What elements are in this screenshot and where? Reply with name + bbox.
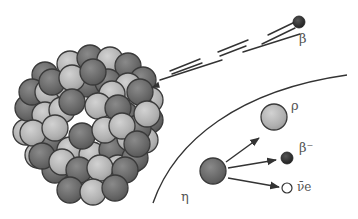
decay-arrows: [226, 138, 279, 187]
electron: [281, 152, 293, 164]
label-emitted-beta: β: [299, 32, 307, 45]
nucleus: [13, 45, 163, 205]
label-proton: ρ: [291, 99, 299, 112]
emitted-beta-particle: [293, 16, 305, 28]
boundary-curve: [153, 75, 347, 203]
label-antineutrino: ν̄e: [297, 181, 311, 193]
label-neutron: η: [181, 190, 189, 203]
beta-trail-lines: [153, 22, 300, 87]
beta-decay-diagram: β η ρ β⁻ ν̄e: [0, 0, 358, 219]
neutron: [200, 158, 226, 184]
antineutrino: [282, 183, 292, 193]
label-electron: β⁻: [299, 141, 313, 154]
proton: [261, 104, 287, 130]
